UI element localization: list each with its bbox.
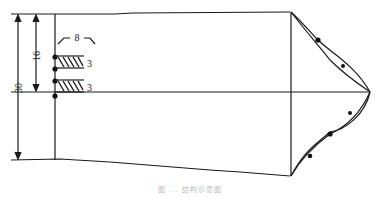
wave-upper-a bbox=[291, 12, 370, 92]
dot-right-1 bbox=[315, 37, 320, 42]
dot-left-3 bbox=[52, 78, 57, 83]
arrow-30-bottom bbox=[15, 152, 21, 159]
dot-right-3 bbox=[348, 111, 352, 115]
label-layer-2: 3 bbox=[87, 82, 92, 93]
arrow-16-top bbox=[33, 15, 39, 22]
label-8: 8 bbox=[75, 32, 80, 43]
arrow-30-top bbox=[15, 15, 21, 22]
arrow-16-bottom bbox=[33, 84, 39, 91]
hatch-layer-1 bbox=[58, 57, 83, 67]
label-30: 30 bbox=[13, 83, 24, 93]
dot-left-1 bbox=[52, 54, 57, 59]
diagram-canvas: 16 30 8 3 3 bbox=[0, 0, 380, 197]
dot-right-5 bbox=[308, 154, 313, 159]
dot-right-2 bbox=[341, 64, 345, 68]
label-layer-1: 3 bbox=[87, 58, 92, 69]
bottom-edge bbox=[11, 159, 290, 176]
top-edge bbox=[11, 12, 290, 14]
label-16: 16 bbox=[31, 51, 42, 61]
dot-left-4 bbox=[52, 93, 57, 98]
dot-right-4 bbox=[327, 131, 332, 136]
marker-dots bbox=[52, 37, 352, 158]
dot-left-2 bbox=[52, 66, 57, 71]
figure-caption: 图 ... 结构示意图 bbox=[0, 184, 380, 194]
hatch-layer-2 bbox=[58, 81, 83, 91]
